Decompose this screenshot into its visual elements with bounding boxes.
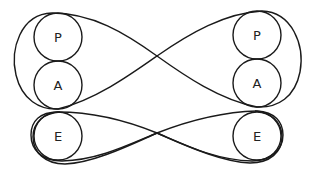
- ego-state-diagram: P A E P A E: [0, 0, 316, 183]
- transaction-right-e-outer-loop: [157, 111, 282, 163]
- left-person: P A E: [34, 13, 82, 160]
- transaction-right-e-to-left-e: [31, 111, 257, 161]
- transaction-left-e-to-right-e: [58, 111, 283, 161]
- right-person: P A E: [233, 11, 281, 160]
- left-child-label: E: [54, 129, 62, 144]
- left-parent-label: P: [54, 30, 62, 45]
- left-adult-label: A: [54, 78, 63, 93]
- transaction-right-p-to-left-a: [52, 11, 301, 107]
- right-adult-label: A: [253, 76, 262, 91]
- right-child-label: E: [253, 129, 261, 144]
- right-parent-label: P: [253, 28, 261, 43]
